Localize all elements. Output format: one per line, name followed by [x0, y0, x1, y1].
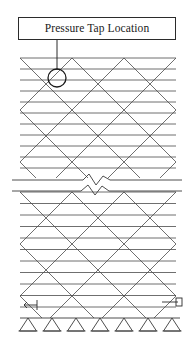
upper-diagonal: [124, 136, 150, 162]
upper-diagonal: [72, 84, 98, 110]
upper-diagonal: [160, 162, 176, 178]
upper-diagonal: [98, 84, 124, 110]
break-line-lower: [12, 185, 182, 195]
lower-diagonal: [98, 218, 124, 244]
pin-support-triangle: [116, 318, 133, 331]
upper-diagonal: [46, 110, 72, 136]
lower-diagonal: [20, 218, 46, 244]
lower-diagonal: [150, 244, 176, 270]
pin-support-triangle: [20, 318, 37, 331]
lower-diagonal: [150, 270, 176, 296]
lower-diagonal: [124, 244, 150, 270]
lower-diagonal: [46, 244, 72, 270]
lower-diagonal: [72, 192, 98, 218]
support-row: [19, 318, 182, 331]
upper-diagonal: [56, 162, 72, 178]
upper-diagonal: [20, 84, 46, 110]
lower-lattice-section: [20, 192, 176, 318]
lower-diagonal: [20, 192, 46, 218]
lower-diagonal: [46, 270, 72, 296]
lower-diagonal: [150, 192, 176, 218]
upper-diagonal: [124, 84, 150, 110]
upper-diagonal: [108, 162, 124, 178]
pressure-tap-circle-marker: [48, 69, 66, 87]
lower-diagonal: [72, 270, 98, 296]
pin-support-triangle: [44, 318, 61, 331]
lower-diagonal: [98, 270, 124, 296]
upper-diagonal: [98, 136, 124, 162]
upper-diagonal: [150, 84, 176, 110]
lower-diagonal: [98, 192, 124, 218]
pressure-tap-label: Pressure Tap Location: [45, 23, 150, 35]
pressure-tap-callout-box: Pressure Tap Location: [18, 17, 176, 40]
upper-diagonal: [72, 136, 98, 162]
upper-diagonal: [124, 110, 150, 136]
upper-diagonal: [72, 162, 88, 178]
lower-diagonal: [124, 192, 150, 218]
pin-support-triangle: [164, 318, 181, 331]
lower-diagonal: [46, 192, 72, 218]
pin-support-triangle: [92, 318, 109, 331]
upper-diagonal: [46, 84, 72, 110]
lower-diagonal: [72, 244, 98, 270]
pin-support-triangle: [68, 318, 85, 331]
dimension-markers: [24, 298, 182, 310]
upper-diagonal: [46, 136, 72, 162]
lower-diagonal: [124, 270, 150, 296]
lower-diagonal: [150, 218, 176, 244]
lower-diagonal: [124, 218, 150, 244]
upper-diagonal: [20, 110, 46, 136]
upper-diagonal: [20, 162, 36, 178]
pin-support-triangle: [140, 318, 157, 331]
break-line-upper: [12, 174, 182, 185]
lower-diagonal: [20, 270, 46, 296]
upper-diagonal: [124, 162, 140, 178]
upper-lattice-section: [20, 58, 176, 178]
lower-diagonal: [20, 244, 46, 270]
upper-diagonal: [150, 136, 176, 162]
upper-diagonal: [20, 136, 46, 162]
tower-drawing: [0, 0, 194, 347]
upper-diagonal: [72, 110, 98, 136]
lattice-tower-figure: Pressure Tap Location: [0, 0, 194, 347]
upper-diagonal: [98, 110, 124, 136]
lower-diagonal: [46, 218, 72, 244]
lower-diagonal: [98, 244, 124, 270]
upper-diagonal: [150, 110, 176, 136]
lower-diagonal: [72, 218, 98, 244]
